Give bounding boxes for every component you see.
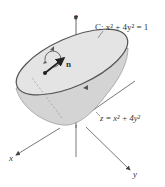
normal-label: n bbox=[66, 59, 71, 69]
x-axis bbox=[16, 128, 60, 155]
y-axis-front bbox=[86, 127, 130, 170]
paraboloid-diagram: z x y n C: x² + 4y² = 1 z = x² + 4y² bbox=[0, 0, 165, 187]
y-axis-label: y bbox=[132, 169, 137, 179]
curve-label: C: x² + 4y² = 1 bbox=[95, 22, 148, 32]
x-axis-label: x bbox=[8, 153, 13, 163]
z-axis-label: z bbox=[73, 11, 78, 21]
surface-label: z = x² + 4y² bbox=[99, 113, 141, 123]
